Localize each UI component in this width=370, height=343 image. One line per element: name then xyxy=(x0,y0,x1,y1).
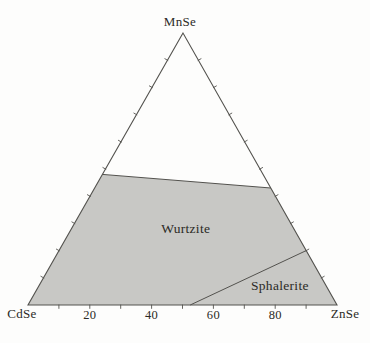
ternary-phase-diagram-figure: 20406080MnSeCdSeZnSeWurtziteSphalerite xyxy=(0,0,370,343)
bottom-axis-tick-label: 40 xyxy=(145,308,158,322)
bottom-axis-tick-label: 20 xyxy=(83,308,96,322)
vertex-label-znse: ZnSe xyxy=(331,306,360,321)
vertex-label-mnse: MnSe xyxy=(164,14,196,29)
ternary-phase-diagram-canvas: 20406080MnSeCdSeZnSeWurtziteSphalerite xyxy=(0,0,370,343)
vertex-label-cdse: CdSe xyxy=(7,306,36,321)
bottom-axis-tick-label: 60 xyxy=(207,308,220,322)
bottom-axis-tick-label: 80 xyxy=(269,308,282,322)
region-label-sphalerite: Sphalerite xyxy=(251,278,309,293)
region-label-wurtzite: Wurtzite xyxy=(161,221,210,236)
